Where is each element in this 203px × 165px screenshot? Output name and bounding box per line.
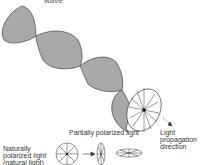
vertical-polarized-ellipse xyxy=(97,143,105,165)
propagation-label-line1: Light xyxy=(160,129,175,136)
natural-light-circle xyxy=(56,143,78,165)
transition-arrow xyxy=(83,152,95,156)
polarization-diagram: wave Light propagation direction Partial… xyxy=(0,0,203,165)
natural-light-label-line3: (natural light) xyxy=(3,159,44,165)
natural-light-label-line1: Naturally xyxy=(3,145,31,152)
horizontal-polarized-ellipse xyxy=(116,149,142,157)
propagation-label-line3: direction xyxy=(160,143,186,150)
partially-polarized-label: Partially polarized light xyxy=(69,129,139,136)
wave-lobes xyxy=(2,6,132,132)
propagation-arrow xyxy=(163,118,172,126)
wave-title-partial: wave xyxy=(44,0,63,4)
natural-light-label-line2: polarized light xyxy=(3,152,46,159)
propagation-label-line2: propagation xyxy=(160,136,197,143)
